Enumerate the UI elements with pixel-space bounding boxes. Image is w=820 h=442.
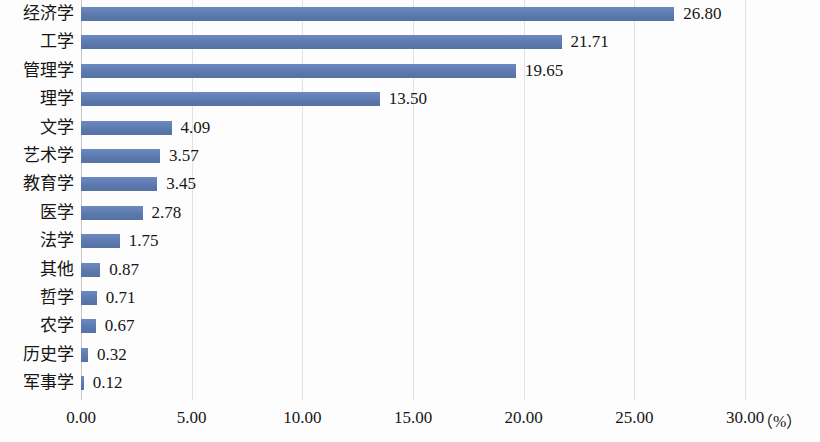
category-label: 历史学 xyxy=(0,341,74,369)
bar-value-label: 2.78 xyxy=(152,199,182,227)
bar-value-label: 21.71 xyxy=(571,28,609,56)
bar xyxy=(81,263,100,277)
bar-value-label: 0.87 xyxy=(109,256,139,284)
x-tick-label: 10.00 xyxy=(283,408,321,428)
bar xyxy=(81,206,143,220)
bar-row: 哲学0.71 xyxy=(0,284,820,312)
category-label: 医学 xyxy=(0,199,74,227)
x-tick-label: 0.00 xyxy=(66,408,96,428)
bar-row: 历史学0.32 xyxy=(0,341,820,369)
bar-value-label: 0.32 xyxy=(97,341,127,369)
bar-value-label: 0.12 xyxy=(93,369,123,397)
bar-row: 艺术学3.57 xyxy=(0,142,820,170)
bar xyxy=(81,35,562,49)
category-label: 教育学 xyxy=(0,170,74,198)
x-tick-label: 20.00 xyxy=(505,408,543,428)
bar xyxy=(81,177,157,191)
bar-value-label: 4.09 xyxy=(181,114,211,142)
bar xyxy=(81,121,172,135)
category-label: 文学 xyxy=(0,114,74,142)
bar xyxy=(81,149,160,163)
bar-row: 法学1.75 xyxy=(0,227,820,255)
category-label: 哲学 xyxy=(0,284,74,312)
category-label: 经济学 xyxy=(0,0,74,28)
bar-row: 文学4.09 xyxy=(0,114,820,142)
bar-value-label: 0.71 xyxy=(106,284,136,312)
bar xyxy=(81,291,97,305)
bar-value-label: 26.80 xyxy=(683,0,721,28)
bar xyxy=(81,234,120,248)
bar-row: 经济学26.80 xyxy=(0,0,820,28)
bar-value-label: 13.50 xyxy=(389,85,427,113)
category-label: 农学 xyxy=(0,312,74,340)
bar-row: 理学13.50 xyxy=(0,85,820,113)
bar xyxy=(81,64,516,78)
bar xyxy=(81,319,96,333)
bar-value-label: 1.75 xyxy=(129,227,159,255)
bar xyxy=(81,376,84,390)
bar-row: 其他0.87 xyxy=(0,256,820,284)
category-label: 法学 xyxy=(0,227,74,255)
category-label: 理学 xyxy=(0,85,74,113)
bar xyxy=(81,348,88,362)
bar-row: 医学2.78 xyxy=(0,199,820,227)
bar-row: 教育学3.45 xyxy=(0,170,820,198)
bar xyxy=(81,92,380,106)
bar-value-label: 3.45 xyxy=(166,170,196,198)
x-tick-label: 30.00 xyxy=(726,408,764,428)
bar-row: 管理学19.65 xyxy=(0,57,820,85)
category-label: 军事学 xyxy=(0,369,74,397)
bar-value-label: 0.67 xyxy=(105,312,135,340)
bar-rows: 经济学26.80工学21.71管理学19.65理学13.50文学4.09艺术学3… xyxy=(0,0,820,400)
category-label: 艺术学 xyxy=(0,142,74,170)
bar-row: 农学0.67 xyxy=(0,312,820,340)
x-tick-label: 15.00 xyxy=(394,408,432,428)
category-label: 工学 xyxy=(0,28,74,56)
bar-row: 军事学0.12 xyxy=(0,369,820,397)
bar-value-label: 3.57 xyxy=(169,142,199,170)
bar-row: 工学21.71 xyxy=(0,28,820,56)
x-tick-label: 5.00 xyxy=(177,408,207,428)
category-label: 管理学 xyxy=(0,57,74,85)
category-label: 其他 xyxy=(0,256,74,284)
x-tick-label: 25.00 xyxy=(615,408,653,428)
bar-value-label: 19.65 xyxy=(525,57,563,85)
bar xyxy=(81,7,674,21)
bar-chart: 经济学26.80工学21.71管理学19.65理学13.50文学4.09艺术学3… xyxy=(0,0,820,442)
x-axis: （%） 0.005.0010.0015.0020.0025.0030.00 xyxy=(0,400,820,442)
